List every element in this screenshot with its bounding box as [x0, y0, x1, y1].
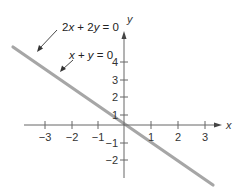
y-tick-label: 2	[112, 91, 118, 103]
x-axis-arrow-icon	[214, 123, 222, 128]
x-tick-label: −2	[66, 131, 79, 143]
equation-label: 2x + 2y = 0	[62, 21, 119, 33]
annotation-2x-plus-2y: 2x + 2y = 0	[37, 21, 119, 52]
annotation-x-plus-y: x + y = 0	[60, 49, 113, 72]
x-tick-label: 2	[175, 131, 181, 143]
y-tick-label: −1	[105, 137, 118, 149]
arrow-icon	[60, 66, 66, 73]
y-tick-label: −2	[105, 154, 118, 166]
x-axis-label: x	[225, 119, 232, 131]
y-ticks: 4 3 2 1 −1 −2	[105, 56, 128, 166]
x-tick-label: 1	[148, 131, 154, 143]
coordinate-plane: x −3 −2 −1 1 2 3 y 4 3 2 1 −1 −2 2	[0, 0, 247, 193]
y-tick-label: 3	[112, 74, 118, 86]
x-axis: x	[24, 119, 232, 131]
y-axis-arrow-icon	[122, 31, 127, 39]
x-tick-label: −1	[92, 131, 105, 143]
y-axis: y	[122, 13, 135, 178]
x-tick-label: 3	[202, 131, 208, 143]
y-axis-label: y	[126, 13, 134, 25]
y-tick-label: 1	[112, 109, 118, 121]
x-tick-label: −3	[39, 131, 52, 143]
equation-label: x + y = 0	[68, 49, 113, 61]
